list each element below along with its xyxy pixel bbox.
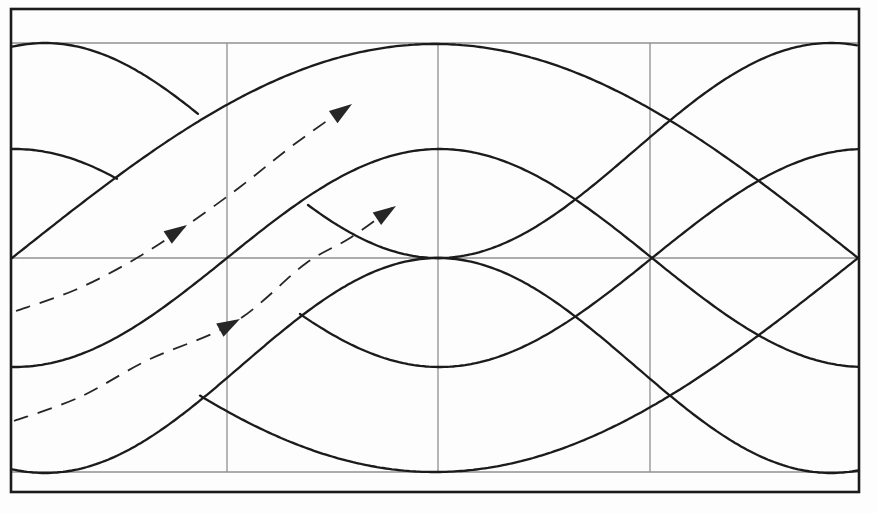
- scanned-figure-page: [0, 0, 877, 513]
- waveform-diagram: [0, 0, 877, 513]
